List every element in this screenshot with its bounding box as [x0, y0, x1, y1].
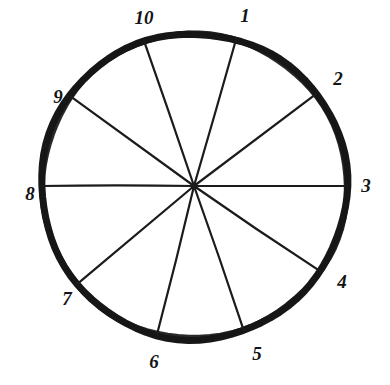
circle-sector-diagram: 12345678910 [0, 0, 390, 385]
center-hub [191, 183, 198, 190]
sector-divider-8 [41, 185, 194, 186]
sector-label-10: 10 [135, 7, 155, 28]
sector-label-8: 8 [25, 183, 35, 204]
figure-canvas: 12345678910 [0, 0, 390, 385]
sector-label-6: 6 [149, 351, 159, 372]
sector-label-4: 4 [336, 271, 347, 292]
sector-label-1: 1 [240, 5, 250, 26]
sector-divider-4 [194, 186, 321, 272]
sector-label-5: 5 [252, 343, 262, 364]
sector-label-9: 9 [53, 86, 63, 107]
sector-divider-6 [157, 186, 194, 334]
sector-label-2: 2 [332, 68, 343, 89]
sector-divider-10 [144, 41, 194, 186]
sector-divider-7 [77, 186, 194, 284]
sector-divider-9 [70, 96, 194, 186]
sector-label-7: 7 [62, 288, 73, 309]
sector-label-3: 3 [360, 175, 371, 196]
sector-divider-1 [194, 39, 236, 186]
sector-divider-2 [194, 94, 316, 186]
sector-divider-5 [194, 186, 244, 331]
